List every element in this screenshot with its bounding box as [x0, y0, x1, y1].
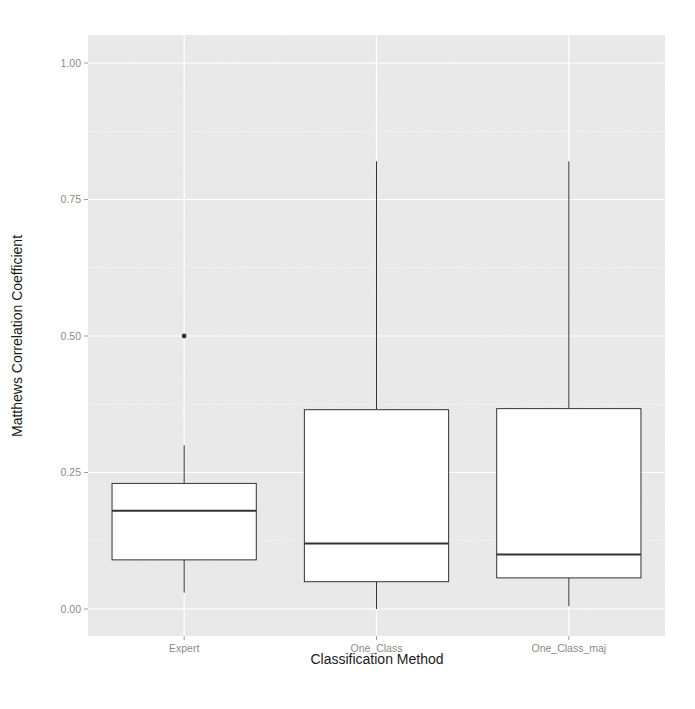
x-tick-label: One_Class_maj: [531, 642, 606, 654]
y-axis: 0.000.250.500.751.00: [61, 57, 88, 615]
x-tick-label: Expert: [169, 642, 199, 654]
y-axis-title: Matthews Correlation Coefficient: [9, 235, 25, 437]
x-axis-title: Classification Method: [310, 651, 443, 667]
y-tick-label: 0.75: [61, 193, 82, 205]
y-tick-label: 0.00: [61, 603, 82, 615]
outlier-point: [182, 334, 187, 339]
y-tick-label: 0.50: [61, 330, 82, 342]
box-iqr: [497, 409, 641, 578]
box-iqr: [112, 483, 256, 559]
boxplot-chart: 0.000.250.500.751.00 ExpertOne_ClassOne_…: [0, 0, 695, 709]
box-iqr: [304, 410, 448, 582]
y-tick-label: 1.00: [61, 57, 82, 69]
y-tick-label: 0.25: [61, 466, 82, 478]
